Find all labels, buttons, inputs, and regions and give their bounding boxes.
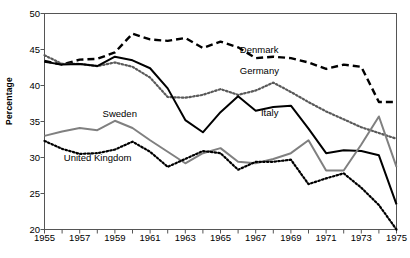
series-label-germany: Germany	[240, 66, 279, 76]
series-label-united-kingdom: United Kingdom	[64, 153, 132, 163]
x-tick-label: 1955	[25, 233, 65, 243]
x-tick-label: 1957	[60, 233, 100, 243]
x-tick-label: 1963	[165, 233, 205, 243]
series-label-italy: Italy	[261, 108, 278, 118]
x-tick-label: 1961	[130, 233, 170, 243]
series-label-denmark: Denmark	[240, 45, 279, 55]
series-label-sweden: Sweden	[103, 109, 137, 119]
line-chart: Percentage 20253035404550 19551957195919…	[0, 0, 410, 258]
x-axis-tick-labels: 1955195719591961196319651967196919711973…	[0, 0, 410, 258]
x-tick-label: 1959	[95, 233, 135, 243]
x-tick-label: 1975	[377, 233, 410, 243]
x-tick-label: 1965	[201, 233, 241, 243]
x-tick-label: 1971	[306, 233, 346, 243]
x-tick-label: 1973	[341, 233, 381, 243]
x-tick-label: 1969	[271, 233, 311, 243]
x-tick-label: 1967	[236, 233, 276, 243]
